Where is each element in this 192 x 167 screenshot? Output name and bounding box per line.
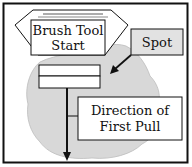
- brush-tool-diagram: Brush Tool Start Spot Direction of First…: [0, 0, 192, 167]
- bristle-block-lower: [39, 76, 100, 88]
- start-label-line2: Start: [51, 38, 85, 53]
- direction-label-line1: Direction of: [91, 103, 170, 118]
- start-label-line1: Brush Tool: [33, 23, 104, 38]
- diagram-canvas: Brush Tool Start Spot Direction of First…: [0, 0, 192, 167]
- direction-label-line2: First Pull: [100, 119, 161, 134]
- spot-label: Spot: [142, 35, 173, 50]
- bristle-block-upper: [39, 65, 100, 76]
